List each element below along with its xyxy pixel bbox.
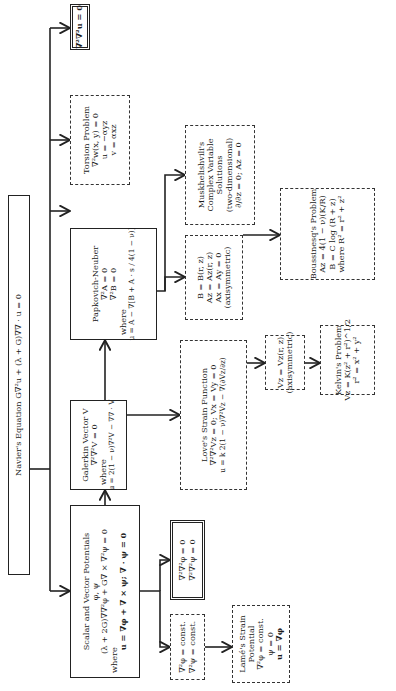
- diagram-canvas: Navier's Equation G∇²u + (λ + G)∇∇ · u =…: [0, 0, 396, 691]
- papkovich-line: ∇²B = 0: [109, 268, 118, 300]
- papkovich-axisymmetric-box: B = B(r, z) Az = Az(r, z) Ax = Ay = 0 (a…: [185, 235, 243, 320]
- biharmonic-phi-psi-box: ∇²∇²φ = 0 ∇²∇²ψ = 0: [170, 520, 205, 600]
- scalar-vector-line: u = ∇φ + ∇ × ψ; ∇ · ψ = 0: [119, 533, 128, 651]
- boussinesq-line: where R² = r² + z²: [337, 196, 346, 273]
- galerkin-line: u = 2(1 − ν)∇²V − ∇∇ · V: [108, 400, 116, 491]
- torsion-problem-box: Torsion Problem ∇²w(x, y) = 0 u = −αyz v…: [70, 95, 130, 185]
- vz-axisymmetric-box: Vz = Vz(r, z) (axisymmetric): [265, 335, 305, 390]
- papkovich-line: u = A − ∇[B + A · s / 4(1 − ν)]: [128, 227, 136, 340]
- navier-equation-text: Navier's Equation G∇²u + (λ + G)∇∇ · u =…: [14, 294, 23, 476]
- scalar-vector-line: where: [110, 647, 119, 677]
- biharmonic-u-text: ∇²∇²u = 0: [75, 5, 84, 49]
- kelvin-line: r² = x² + y²: [352, 336, 361, 383]
- love-strain-function-box: Love's Strain Function ∇²∇²Vz = 0; Vx = …: [180, 340, 247, 490]
- axisym-line: (axisymmetric): [223, 246, 232, 308]
- scalar-vector-potentials-box: Scalar and Vector Potentials φ, ψ (λ + 2…: [70, 505, 140, 678]
- muskhelishvili-line: ∂/∂z = 0; Az = 0: [234, 142, 243, 208]
- biharmonic-psi-text: ∇²∇²ψ = 0: [188, 539, 197, 581]
- laplacian-psi-text: ∇²ψ = const.: [188, 621, 197, 673]
- boussinesq-problem-box: Boussinesq's Problem Az = 4(1 − ν)(K/R) …: [280, 188, 375, 280]
- papkovich-neuber-box: Papkovich-Neuber ∇²A = 0 ∇²B = 0 where u…: [70, 228, 157, 340]
- scalar-vector-line: (λ + 2G)∇∇²φ + G∇ × ∇²ψ = 0: [100, 529, 109, 654]
- biharmonic-u-box: ∇²∇²u = 0: [70, 4, 90, 50]
- torsion-line: v = αxz: [109, 124, 118, 155]
- kelvin-problem-box: Kelvin's Problem Vz = K(z² + r²)^1/2 r² …: [320, 325, 375, 395]
- lame-strain-potential-box: Lamé's Strain Potential ∇²φ = const. ψ =…: [232, 605, 290, 683]
- love-line: u = k 2(1 − ν)∇²Vz − ∇(∂Vz/∂z): [219, 357, 227, 472]
- laplacian-const-box: ∇²φ = const. ∇²ψ = const.: [170, 614, 205, 680]
- vz-line: (axisymmetric): [285, 331, 294, 393]
- muskhelishvili-box: Muskhelishvili's Complex Variable Soluti…: [185, 125, 255, 225]
- lame-line: u = ∇φ: [275, 628, 284, 660]
- navier-equation-box: Navier's Equation G∇²u + (λ + G)∇∇ · u =…: [8, 195, 30, 575]
- galerkin-vector-box: Galerkin Vector V ∇²∇²V = 0 where u = 2(…: [70, 400, 127, 490]
